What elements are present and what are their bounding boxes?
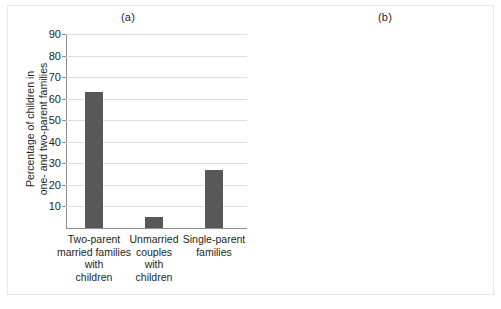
y-tick-label: 20 bbox=[49, 179, 61, 191]
y-tick-label: 10 bbox=[49, 200, 61, 212]
y-tick-mark bbox=[62, 185, 66, 186]
chart-a-y-axis-line bbox=[66, 34, 67, 229]
y-tick-mark bbox=[62, 34, 66, 35]
y-tick-mark bbox=[62, 142, 66, 143]
y-tick-label: 90 bbox=[49, 28, 61, 40]
y-tick-mark bbox=[62, 99, 66, 100]
y-tick-mark bbox=[62, 163, 66, 164]
bar bbox=[85, 92, 103, 228]
bar bbox=[205, 170, 223, 228]
y-tick-mark bbox=[62, 77, 66, 78]
gridline bbox=[66, 77, 247, 78]
y-tick-mark bbox=[62, 120, 66, 121]
y-tick-label: 70 bbox=[49, 71, 61, 83]
figure-container: (a) Percentage of children in one- and t… bbox=[0, 0, 501, 309]
chart-panels: (a) Percentage of children in one- and t… bbox=[0, 0, 501, 309]
chart-panel-a: (a) Percentage of children in one- and t… bbox=[0, 0, 262, 309]
bar bbox=[145, 217, 163, 228]
gridline bbox=[66, 34, 247, 35]
gridline bbox=[66, 56, 247, 57]
chart-a-title: (a) bbox=[18, 11, 238, 23]
chart-panel-b: (b) Percentage of children living under … bbox=[262, 0, 501, 309]
chart-b-title: (b) bbox=[290, 11, 480, 23]
y-tick-label: 60 bbox=[49, 93, 61, 105]
y-tick-label: 80 bbox=[49, 50, 61, 62]
chart-a-category-labels: Two-parent married families with childre… bbox=[40, 233, 255, 303]
chart-a-y-axis-label: Percentage of children in one- and two-p… bbox=[24, 36, 49, 222]
y-tick-mark bbox=[62, 56, 66, 57]
category-label: Single-parent families bbox=[173, 233, 255, 258]
chart-a-plot-area: 102030405060708090 bbox=[66, 34, 247, 229]
y-tick-label: 30 bbox=[49, 157, 61, 169]
y-tick-label: 50 bbox=[49, 114, 61, 126]
y-tick-mark bbox=[62, 206, 66, 207]
chart-a-x-axis-line bbox=[66, 228, 247, 229]
y-tick-label: 40 bbox=[49, 136, 61, 148]
